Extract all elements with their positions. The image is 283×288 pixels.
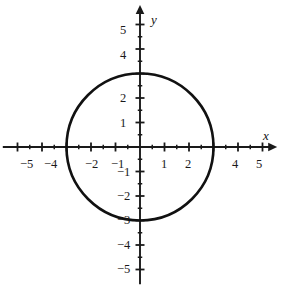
y-tick-label-5: 5 xyxy=(120,24,126,37)
y-tick-label-2: 2 xyxy=(120,92,126,105)
x-tick-label--4: −4 xyxy=(44,158,57,171)
x-tick-label-4: 4 xyxy=(232,158,238,171)
y-tick-label--3: −3 xyxy=(117,214,130,227)
y-axis-arrowhead xyxy=(136,5,145,14)
x-tick-label--5: −5 xyxy=(20,158,33,171)
coordinate-plane-svg xyxy=(0,0,283,288)
y-tick-label--5: −5 xyxy=(117,263,130,276)
y-tick-label--4: −4 xyxy=(117,239,130,252)
y-tick-label-1: 1 xyxy=(120,117,126,130)
y-tick-label--1: −1 xyxy=(117,166,130,179)
x-axis-label: x xyxy=(263,129,269,142)
y-tick-label-4: 4 xyxy=(120,49,126,62)
x-tick-label-5: 5 xyxy=(256,158,262,171)
svg-drawing-root xyxy=(3,5,277,284)
x-tick-label--2: −2 xyxy=(85,158,98,171)
graph-figure: −5 −4 −2 −1 1 2 4 5 5 4 2 1 −1 −2 −3 −4 … xyxy=(0,0,283,288)
x-tick-label-2: 2 xyxy=(185,158,191,171)
x-axis-arrowhead xyxy=(268,143,277,152)
y-axis-label: y xyxy=(151,13,157,26)
y-tick-label--2: −2 xyxy=(117,190,130,203)
x-tick-label-1: 1 xyxy=(161,158,167,171)
